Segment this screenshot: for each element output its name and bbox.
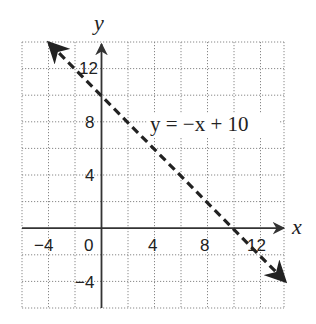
y-tick-label: 4 bbox=[85, 166, 94, 185]
x-axis-label: x bbox=[291, 214, 302, 239]
y-tick-label: −4 bbox=[75, 273, 94, 292]
x-tick-label: −4 bbox=[34, 236, 53, 255]
y-axis-label: y bbox=[92, 10, 104, 35]
grid bbox=[22, 42, 284, 308]
y-tick-label: 8 bbox=[85, 113, 94, 132]
x-tick-label: 4 bbox=[148, 236, 157, 255]
graph: x y −4 0 4 8 12 12 8 4 −4 y = −x + 10 bbox=[0, 0, 316, 324]
x-tick-label: 8 bbox=[200, 236, 209, 255]
equation-label: y = −x + 10 bbox=[150, 112, 249, 136]
x-tick-label: 0 bbox=[84, 236, 93, 255]
